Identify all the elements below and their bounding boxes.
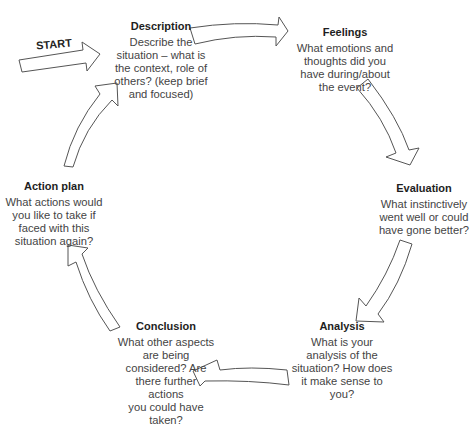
stage-text: What is your analysis of the situation? … xyxy=(287,336,397,401)
arrow-conclusion-to-action-plan xyxy=(68,245,120,331)
stage-text: What emotions and thoughts did you have … xyxy=(286,42,404,94)
stage-title: Evaluation xyxy=(370,182,474,195)
stage-title: Conclusion xyxy=(110,320,222,333)
stage-text: What actions would you like to take if f… xyxy=(0,196,108,248)
stage-action-plan: Action plan What actions would you like … xyxy=(0,180,108,248)
stage-description: Description Describe the situation – wha… xyxy=(106,20,216,101)
stage-title: Action plan xyxy=(0,180,108,193)
stage-evaluation: Evaluation What instinctively went well … xyxy=(370,182,474,237)
stage-title: Description xyxy=(106,20,216,33)
stage-feelings: Feelings What emotions and thoughts did … xyxy=(286,26,404,94)
stage-conclusion: Conclusion What other aspects are being … xyxy=(110,320,222,427)
arrow-evaluation-to-analysis xyxy=(356,240,412,322)
stage-title: Analysis xyxy=(287,320,397,333)
stage-title: Feelings xyxy=(286,26,404,39)
stage-analysis: Analysis What is your analysis of the si… xyxy=(287,320,397,401)
stage-text: What other aspects are being considered?… xyxy=(110,336,222,427)
stage-text: What instinctively went well or could ha… xyxy=(370,198,474,237)
stage-text: Describe the situation – what is the con… xyxy=(106,36,216,101)
